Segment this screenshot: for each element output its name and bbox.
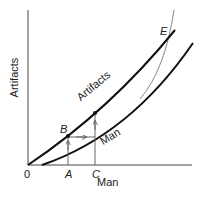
point-a-label: A <box>65 169 72 180</box>
y-axis-label: Artifacts <box>9 50 20 106</box>
origin-label: 0 <box>24 169 30 180</box>
diagram-canvas <box>0 0 204 198</box>
point-c-artifacts <box>93 111 97 115</box>
artifacts-curve <box>28 30 175 165</box>
steep-curve <box>140 10 174 99</box>
point-e-label: E <box>160 26 167 37</box>
man-curve <box>42 43 193 165</box>
point-c-label: C <box>92 169 100 180</box>
x-axis-label: Man <box>97 177 118 188</box>
point-b-label: B <box>60 124 67 135</box>
